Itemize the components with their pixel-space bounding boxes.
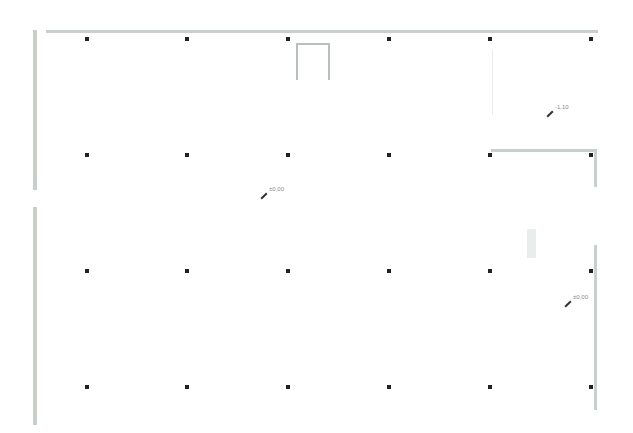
column-marker bbox=[85, 385, 89, 389]
elevation-label: ±0,00 bbox=[573, 294, 588, 300]
column-marker bbox=[387, 385, 391, 389]
column-marker bbox=[488, 269, 492, 273]
column-marker bbox=[286, 385, 290, 389]
column-marker bbox=[589, 269, 593, 273]
column-marker bbox=[85, 153, 89, 157]
column-marker bbox=[185, 153, 189, 157]
column-marker bbox=[589, 153, 593, 157]
elevation-label: -1,10 bbox=[555, 104, 569, 110]
elevation-label: ±0,00 bbox=[269, 186, 284, 192]
elevation-marker: ±0,00 bbox=[564, 294, 588, 308]
faint-window bbox=[527, 229, 536, 258]
column-marker bbox=[387, 269, 391, 273]
column-marker bbox=[286, 153, 290, 157]
column-marker bbox=[589, 385, 593, 389]
column-marker bbox=[286, 37, 290, 41]
column-marker bbox=[488, 153, 492, 157]
column-marker bbox=[85, 269, 89, 273]
elevation-arrow-icon bbox=[546, 110, 554, 118]
wall-right-upper bbox=[594, 149, 597, 187]
elevation-arrow-icon bbox=[260, 192, 268, 200]
wall-right-lower bbox=[594, 245, 597, 410]
elevation-arrow-icon bbox=[564, 300, 572, 308]
column-marker bbox=[185, 269, 189, 273]
floor-plan: ±0,00 -1,10 ±0,00 bbox=[0, 0, 633, 433]
niche-left bbox=[296, 43, 298, 80]
column-marker bbox=[185, 385, 189, 389]
column-marker bbox=[589, 37, 593, 41]
column-marker bbox=[387, 153, 391, 157]
elevation-marker: ±0,00 bbox=[260, 186, 284, 200]
column-marker bbox=[488, 37, 492, 41]
column-marker bbox=[185, 37, 189, 41]
faint-line bbox=[492, 50, 493, 115]
wall-right-horizontal bbox=[491, 149, 597, 152]
elevation-marker: -1,10 bbox=[546, 104, 569, 118]
wall-left-upper bbox=[33, 30, 37, 190]
niche-right bbox=[328, 43, 330, 80]
column-marker bbox=[488, 385, 492, 389]
column-marker bbox=[286, 269, 290, 273]
column-marker bbox=[85, 37, 89, 41]
column-marker bbox=[387, 37, 391, 41]
wall-top bbox=[46, 30, 598, 33]
wall-left-lower bbox=[33, 207, 37, 425]
niche-top bbox=[296, 43, 330, 45]
